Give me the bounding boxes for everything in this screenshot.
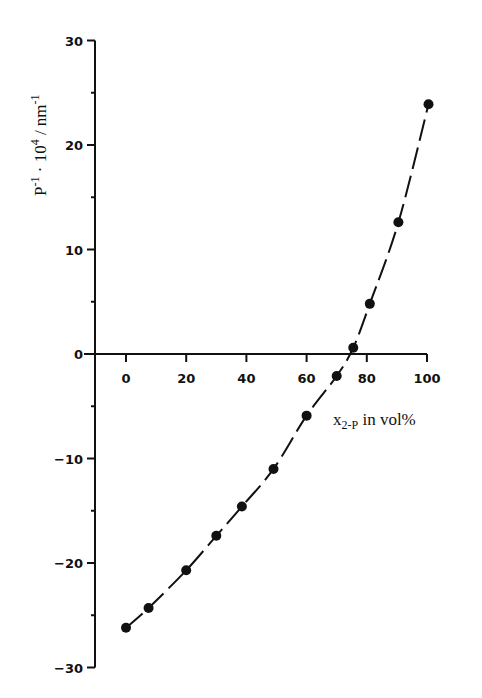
data-point <box>211 531 221 541</box>
y-tick-label: −20 <box>54 556 83 571</box>
x-tick-label: 100 <box>413 371 440 386</box>
data-point <box>144 603 154 613</box>
chart: 3020100−10−20−30020406080100 x2-P in vol… <box>0 0 482 698</box>
y-tick-label: 10 <box>65 243 83 258</box>
y-tick-label: 30 <box>65 34 83 49</box>
data-point <box>348 343 358 353</box>
data-point <box>393 217 403 227</box>
x-tick-label: 20 <box>177 371 195 386</box>
y-tick-label: −10 <box>54 452 83 467</box>
x-tick-label: 60 <box>298 371 316 386</box>
data-point <box>237 502 247 512</box>
x-tick-label: 0 <box>121 371 130 386</box>
data-points <box>121 99 434 633</box>
fit-curve-path <box>126 104 429 628</box>
y-tick-label: 0 <box>74 347 83 362</box>
data-point <box>121 623 131 633</box>
data-point <box>424 99 434 109</box>
axes: 3020100−10−20−30020406080100 <box>54 34 441 676</box>
y-axis-title: P-1 · 104 / nm-1 <box>28 94 50 196</box>
data-point <box>181 565 191 575</box>
fit-curve <box>126 104 429 628</box>
x-tick-label: 40 <box>237 371 255 386</box>
data-point <box>268 464 278 474</box>
y-tick-label: −30 <box>54 661 83 676</box>
x-tick-label: 80 <box>358 371 376 386</box>
y-tick-label: 20 <box>65 138 83 153</box>
data-point <box>365 299 375 309</box>
x-axis-title: x2-P in vol% <box>333 410 416 432</box>
data-point <box>302 411 312 421</box>
data-point <box>332 371 342 381</box>
